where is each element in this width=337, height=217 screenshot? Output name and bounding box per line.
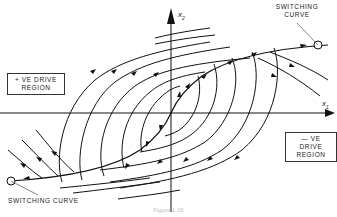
x1-axis-arrow-icon xyxy=(325,109,335,117)
label-line: + VE DRIVE xyxy=(11,76,61,84)
trajectory xyxy=(100,58,236,170)
phase-plane-diagram xyxy=(0,0,337,217)
trajectory xyxy=(36,130,74,172)
label-line: REGION xyxy=(289,151,333,159)
direction-arrows xyxy=(20,44,307,179)
trajectory xyxy=(258,58,320,96)
negative-drive-region-label: — VE DRIVE REGION xyxy=(285,132,337,162)
trajectory xyxy=(73,182,160,193)
x2-axis-arrow-icon xyxy=(167,8,175,24)
trajectory xyxy=(270,52,328,80)
trajectory xyxy=(101,58,250,176)
leader-line-top xyxy=(297,23,318,45)
label-line: — VE DRIVE xyxy=(289,135,333,151)
trajectory xyxy=(60,178,150,188)
label-line: SWITCHING xyxy=(262,3,332,11)
trajectory xyxy=(165,76,200,136)
figure-caption: Figure 1.16 xyxy=(0,207,337,213)
switching-curve-label-top: SWITCHING CURVE xyxy=(262,3,332,19)
positive-drive-region-label: + VE DRIVE REGION xyxy=(7,73,65,95)
leader-line-bottom xyxy=(11,181,38,195)
x2-axis-label: x2 xyxy=(178,10,185,21)
x1-axis-label: x1 xyxy=(322,99,329,110)
label-line: CURVE xyxy=(262,11,332,19)
trajectory xyxy=(120,48,277,188)
switching-curve-label-bottom: SWITCHING CURVE xyxy=(8,197,98,205)
trajectory xyxy=(59,42,210,182)
label-line: REGION xyxy=(11,84,61,92)
